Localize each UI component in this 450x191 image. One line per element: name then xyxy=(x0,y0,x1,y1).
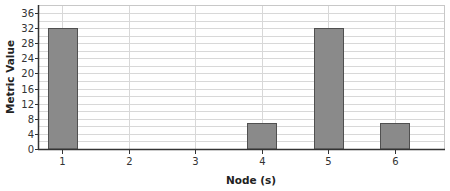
bar-node-1 xyxy=(49,29,78,150)
bars xyxy=(49,29,410,150)
bar-node-4 xyxy=(248,124,277,150)
x-tick-label: 1 xyxy=(59,156,65,167)
y-tick-label: 0 xyxy=(28,144,34,155)
x-tick-label: 5 xyxy=(325,156,331,167)
y-tick-label: 32 xyxy=(21,23,34,34)
y-axis-title: Metric Value xyxy=(4,40,16,114)
x-axis-title: Node (s) xyxy=(226,174,276,186)
bar-node-6 xyxy=(381,124,410,150)
y-tick-label: 20 xyxy=(21,68,34,79)
y-tick-label: 12 xyxy=(21,99,34,110)
y-tick-label: 16 xyxy=(21,84,34,95)
x-axis-ticks: 123456 xyxy=(59,149,398,167)
y-tick-label: 36 xyxy=(21,8,34,19)
y-tick-label: 28 xyxy=(21,38,34,49)
x-tick-label: 6 xyxy=(392,156,398,167)
x-tick-label: 4 xyxy=(259,156,265,167)
y-tick-label: 8 xyxy=(28,114,34,125)
x-tick-label: 2 xyxy=(126,156,132,167)
bar-node-5 xyxy=(315,29,344,150)
x-tick-label: 3 xyxy=(192,156,198,167)
y-axis-ticks: 04812162024283236 xyxy=(21,8,38,155)
y-tick-label: 24 xyxy=(21,53,34,64)
bar-chart: 04812162024283236 123456 Node (s) Metric… xyxy=(0,0,450,191)
y-tick-label: 4 xyxy=(28,129,34,140)
